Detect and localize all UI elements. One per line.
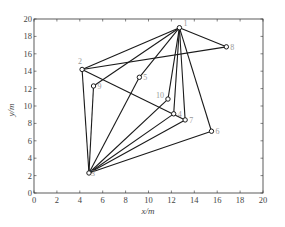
edge-1-10 bbox=[168, 28, 179, 99]
node-marker-9 bbox=[91, 84, 95, 88]
y-tick-label: 18 bbox=[24, 31, 33, 41]
x-tick-label: 20 bbox=[259, 195, 268, 205]
y-tick-label: 2 bbox=[28, 171, 32, 181]
node-label-3: 3 bbox=[91, 169, 95, 178]
edge-1-9 bbox=[94, 28, 180, 86]
y-tick-label: 14 bbox=[24, 66, 33, 76]
x-tick-label: 16 bbox=[213, 195, 222, 205]
node-label-1: 1 bbox=[183, 19, 187, 28]
edge-1-6 bbox=[179, 28, 211, 132]
edge-3-4 bbox=[89, 114, 174, 173]
node-marker-6 bbox=[209, 129, 213, 133]
axes-frame bbox=[34, 19, 263, 193]
node-label-8: 8 bbox=[230, 43, 234, 52]
edge-2-8 bbox=[82, 47, 226, 70]
x-tick-label: 12 bbox=[167, 195, 176, 205]
edge-1-5 bbox=[139, 28, 179, 78]
x-axis-label: x/m bbox=[141, 206, 155, 216]
node-marker-8 bbox=[224, 45, 228, 49]
node-label-5: 5 bbox=[143, 73, 147, 82]
x-tick-label: 10 bbox=[144, 195, 153, 205]
y-axis-label: y/m bbox=[6, 103, 16, 117]
edge-1-4 bbox=[174, 28, 180, 114]
y-tick-label: 20 bbox=[24, 14, 33, 24]
y-tick-label: 4 bbox=[28, 153, 33, 163]
x-tick-label: 14 bbox=[190, 195, 199, 205]
x-tick-label: 2 bbox=[55, 195, 59, 205]
x-tick-label: 8 bbox=[123, 195, 127, 205]
y-tick-label: 0 bbox=[28, 188, 32, 198]
y-tick-label: 8 bbox=[28, 118, 32, 128]
y-tick-label: 10 bbox=[24, 101, 33, 111]
node-marker-10 bbox=[166, 97, 170, 101]
edge-3-2 bbox=[82, 69, 89, 173]
edge-1-8 bbox=[179, 28, 226, 47]
x-tick-label: 18 bbox=[236, 195, 245, 205]
edge-1-2 bbox=[82, 28, 179, 70]
edge-2-7 bbox=[82, 69, 185, 119]
network-plot: 0246810121416182002468101214161820 12345… bbox=[0, 0, 285, 227]
node-label-10: 10 bbox=[156, 91, 164, 100]
x-tick-label: 0 bbox=[32, 195, 36, 205]
node-marker-1 bbox=[177, 26, 181, 30]
edges-layer bbox=[82, 28, 226, 173]
plot-canvas: 0246810121416182002468101214161820 12345… bbox=[0, 0, 285, 227]
nodes-layer: 12345678910 bbox=[78, 19, 234, 178]
node-label-4: 4 bbox=[178, 110, 182, 119]
y-tick-label: 12 bbox=[24, 84, 33, 94]
x-tick-label: 4 bbox=[78, 195, 83, 205]
node-label-9: 9 bbox=[98, 82, 102, 91]
node-marker-7 bbox=[183, 118, 187, 122]
node-marker-5 bbox=[137, 75, 141, 79]
x-tick-label: 6 bbox=[101, 195, 105, 205]
node-label-6: 6 bbox=[215, 127, 219, 136]
y-tick-label: 16 bbox=[24, 49, 33, 59]
plot-frame bbox=[34, 19, 263, 193]
node-marker-2 bbox=[80, 67, 84, 71]
node-marker-4 bbox=[171, 112, 175, 116]
edge-3-9 bbox=[89, 86, 94, 173]
node-label-7: 7 bbox=[189, 116, 193, 125]
y-tick-label: 6 bbox=[28, 136, 32, 146]
edge-1-7 bbox=[179, 28, 185, 120]
node-label-2: 2 bbox=[78, 57, 82, 66]
